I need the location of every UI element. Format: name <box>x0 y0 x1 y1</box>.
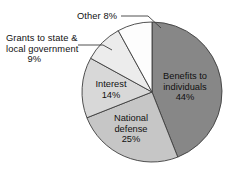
slice-label-national-defense-percent: 25% <box>100 134 162 145</box>
slice-label-national-defense-line2: defense <box>100 124 162 135</box>
slice-label-interest-percent: 14% <box>85 90 137 101</box>
slice-label-grants-line1: Grants to state & <box>6 33 77 43</box>
slice-label-benefits-to-individuals: Benefits to individuals 44% <box>153 71 217 103</box>
slice-label-grants-line2: local government <box>6 44 78 54</box>
pie-chart-figure: Other 8% Grants to state & local governm… <box>0 0 236 174</box>
slice-label-national-defense: National defense 25% <box>100 113 162 145</box>
slice-label-benefits-percent: 44% <box>153 92 217 103</box>
slice-label-other-text: Other 8% <box>77 11 117 21</box>
slice-label-interest-name: Interest <box>95 79 126 89</box>
slice-label-benefits-line2: individuals <box>153 82 217 93</box>
slice-label-benefits-line1: Benefits to <box>163 71 207 81</box>
slice-label-national-defense-line1: National <box>114 113 148 123</box>
slice-label-other: Other 8% <box>77 11 117 22</box>
slice-label-interest: Interest 14% <box>85 79 137 100</box>
slice-label-grants-percent: 9% <box>6 54 78 65</box>
slice-label-grants: Grants to state & local government 9% <box>6 33 78 65</box>
